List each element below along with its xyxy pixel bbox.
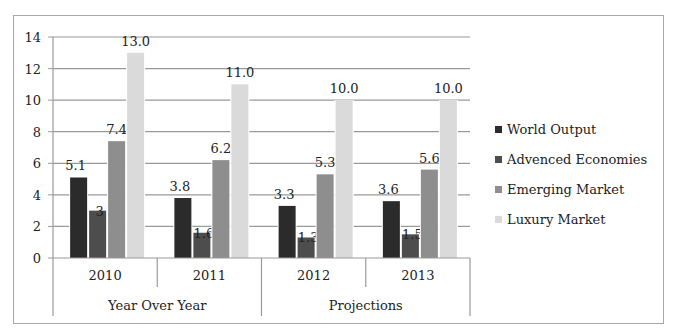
legend-swatch-icon [495, 156, 502, 163]
bar [279, 206, 296, 258]
x-group-label: Year Over Year [107, 298, 207, 313]
bar [421, 170, 438, 258]
legend-swatch-icon [495, 126, 502, 133]
data-label: 5.3 [315, 155, 336, 170]
legend-item-advanced-economies: Advenced Economies [495, 144, 647, 174]
legend-item-world-output: World Output [495, 114, 647, 144]
bar [174, 198, 191, 258]
x-category-label: 2012 [297, 268, 330, 283]
bar [231, 84, 248, 258]
x-category-label: 2011 [193, 268, 226, 283]
bar [317, 174, 334, 258]
legend-label: World Output [507, 122, 596, 137]
data-label: 10.0 [330, 81, 359, 96]
y-tick-label: 14 [24, 30, 41, 45]
bar [108, 141, 125, 258]
bar [336, 100, 353, 258]
legend-item-luxury-market: Luxury Market [495, 204, 647, 234]
data-label: 3.3 [274, 187, 295, 202]
legend-swatch-icon [495, 186, 502, 193]
data-label: 6.2 [211, 141, 232, 156]
data-label: 1.3 [298, 230, 319, 245]
data-label: 3.6 [378, 182, 399, 197]
chart-legend: World Output Advenced Economies Emerging… [495, 114, 647, 234]
legend-label: Advenced Economies [507, 152, 647, 167]
data-label: 3.8 [170, 179, 191, 194]
bar [212, 160, 229, 258]
bar [70, 177, 87, 258]
data-label: 13.0 [121, 34, 150, 49]
y-tick-label: 10 [24, 93, 41, 108]
legend-item-emerging-market: Emerging Market [495, 174, 647, 204]
legend-label: Luxury Market [507, 212, 605, 227]
data-label: 5.1 [65, 158, 86, 173]
y-tick-label: 0 [33, 251, 41, 266]
y-tick-label: 2 [33, 219, 41, 234]
data-label: 1.6 [194, 226, 215, 241]
legend-swatch-icon [495, 216, 502, 223]
bar [127, 53, 144, 258]
data-label: 7.4 [106, 122, 127, 137]
data-label: 11.0 [225, 65, 254, 80]
y-tick-label: 4 [33, 188, 41, 203]
x-category-label: 2013 [401, 268, 434, 283]
data-label: 5.6 [419, 151, 440, 166]
y-tick-label: 12 [24, 62, 41, 77]
bar [440, 100, 457, 258]
x-group-label: Projections [329, 298, 403, 313]
x-category-label: 2010 [89, 268, 122, 283]
data-label: 10.0 [434, 81, 463, 96]
data-label: 1.5 [402, 227, 423, 242]
y-tick-label: 8 [33, 125, 41, 140]
data-label: 3 [95, 204, 103, 219]
bar [383, 201, 400, 258]
y-tick-label: 6 [33, 156, 41, 171]
legend-label: Emerging Market [507, 182, 624, 197]
